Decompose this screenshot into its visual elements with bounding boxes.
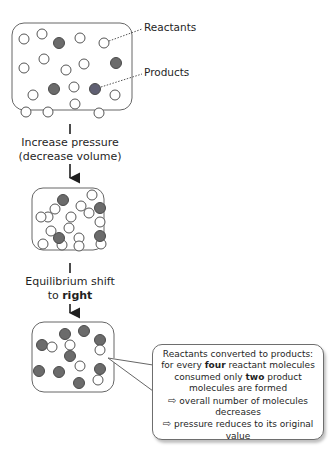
callout-line4: molecules are formed <box>155 383 321 394</box>
callout-line3-a: consumed only <box>174 372 245 382</box>
step1-line1: Increase pressure <box>0 136 140 150</box>
step1-line2: (decrease volume) <box>0 150 140 164</box>
step-equilibrium-shift: Equilibrium shift to right <box>0 275 140 303</box>
callout-line7-text: pressure reduces to its original <box>174 419 313 429</box>
callout-line8: value <box>155 431 321 442</box>
callout-line2-a: for every <box>161 360 205 370</box>
callout-four: four <box>205 360 226 370</box>
callout-line1: Reactants converted to products: <box>155 349 321 360</box>
callout-two: two <box>246 372 265 382</box>
callout-line7: ⇨pressure reduces to its original <box>155 418 321 430</box>
callout-line2: for every four reactant molecules <box>155 360 321 371</box>
step-increase-pressure: Increase pressure (decrease volume) <box>0 136 140 164</box>
step2-line1: Equilibrium shift <box>0 275 140 289</box>
callout-line5: ⇨overall number of molecules <box>155 395 321 407</box>
reactants-label: Reactants <box>144 21 196 33</box>
callout-line3: consumed only two product <box>155 372 321 383</box>
step2-line2: to right <box>0 289 140 303</box>
new-equilibrium-box <box>32 322 114 392</box>
callout-line2-b: reactant molecules <box>226 360 315 370</box>
explanation-callout: Reactants converted to products: for eve… <box>152 344 324 440</box>
implies-arrow-icon: ⇨ <box>163 418 171 429</box>
step2-bold-right: right <box>62 289 92 302</box>
callout-line6: decreases <box>155 407 321 418</box>
callout-line5-text: overall number of molecules <box>179 396 308 406</box>
compressed-state-box <box>32 188 106 251</box>
step2-prefix: to <box>48 289 63 302</box>
products-label: Products <box>144 66 189 78</box>
initial-state-box <box>12 23 142 118</box>
implies-arrow-icon: ⇨ <box>168 395 176 406</box>
callout-line3-b: product <box>264 372 301 382</box>
